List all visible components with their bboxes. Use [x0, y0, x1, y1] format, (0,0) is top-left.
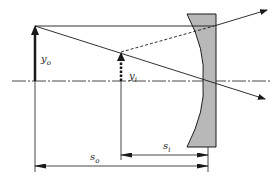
diagram-canvas — [0, 0, 273, 182]
ray-parallel-refracted — [214, 10, 267, 26]
ray-chief — [35, 26, 265, 99]
label-object-height: yo — [41, 54, 51, 67]
ray-diagram: yo yi si so — [0, 0, 273, 182]
label-image-height: yi — [129, 71, 137, 84]
diverging-lens — [187, 14, 216, 147]
label-object-distance: so — [90, 152, 99, 165]
label-image-distance: si — [163, 141, 170, 154]
